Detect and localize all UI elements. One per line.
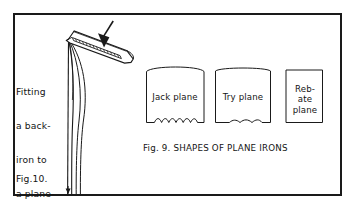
figure-10-label: Fig.10. (16, 173, 48, 184)
figure-9-caption: Fig. 9. SHAPES OF PLANE IRONS (143, 143, 288, 153)
jack-plane-label: Jack plane (145, 92, 205, 102)
caption-line: a plane- (16, 188, 64, 199)
back-iron-fitting-diagram (66, 21, 134, 196)
rebate-plane-label-line: Reb- (283, 84, 327, 94)
plane-iron (66, 39, 86, 196)
try-plane-label: Try plane (214, 92, 272, 102)
caption-line: Fitting (16, 86, 64, 97)
rebate-plane-label: Reb- ate plane (283, 84, 327, 115)
rebate-plane-label-line: ate (283, 94, 327, 104)
caption-line: a back- (16, 120, 64, 131)
figure-plate: Fitting a back- iron to a plane- iron Fi… (0, 0, 355, 211)
fitting-description-caption: Fitting a back- iron to a plane- iron (16, 63, 64, 211)
rebate-plane-label-line: plane (283, 105, 327, 115)
caption-line: iron to (16, 154, 64, 165)
